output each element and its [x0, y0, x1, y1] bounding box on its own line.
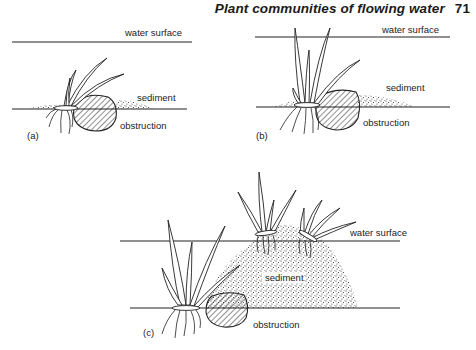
- panel-b: water surface sediment obstruction (b): [255, 24, 450, 141]
- obstruction-label: obstruction: [120, 120, 166, 131]
- obstruction-label: obstruction: [253, 319, 299, 330]
- sediment-label: sediment: [265, 272, 304, 283]
- panel-label: (a): [27, 130, 39, 141]
- panel-label: (c): [143, 327, 154, 338]
- obstruction-label: obstruction: [363, 117, 409, 128]
- panel-label: (b): [256, 130, 268, 141]
- water-surface-label: water surface: [349, 227, 407, 238]
- panel-a: water surface sediment obstruction (a): [12, 27, 192, 141]
- water-surface-label: water surface: [381, 24, 439, 35]
- sediment-accumulation-diagram: water surface sediment obstruction (a) w…: [0, 0, 476, 350]
- sediment-label: sediment: [137, 92, 176, 103]
- water-surface-label: water surface: [124, 27, 182, 38]
- obstruction-rock: [206, 293, 248, 327]
- panel-c: water surface sediment obstruction (c): [120, 172, 407, 338]
- sediment-label: sediment: [386, 82, 425, 93]
